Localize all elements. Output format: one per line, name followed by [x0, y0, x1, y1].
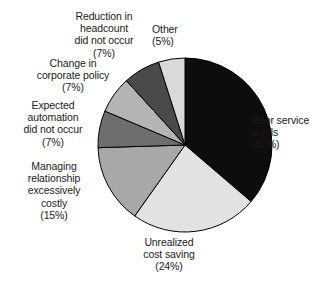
slice-label-poor-service-levels: Poor service levels (37%): [252, 114, 326, 151]
slice-label-expected-automation: Expected automation did not occur (7%): [7, 99, 99, 148]
slice-label-reduction-headcount: Reduction in headcount did not occur (7%…: [60, 10, 148, 59]
pie-slices: [98, 58, 272, 232]
slice-label-managing-relationship: Managing relationship excessively costly…: [9, 160, 99, 221]
slice-label-corporate-policy: Change in corporate policy (7%): [22, 57, 124, 94]
slice-label-other: Other (5%): [152, 23, 198, 47]
slice-label-unrealized-cost-saving: Unrealized cost saving (24%): [113, 236, 225, 273]
pie-chart-page: Poor service levels (37%) Unrealized cos…: [0, 0, 328, 285]
